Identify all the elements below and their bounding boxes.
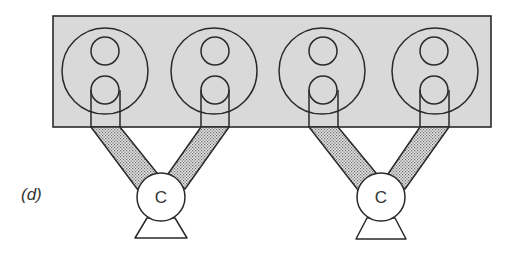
component-label-right: C — [375, 188, 387, 207]
engine-diagram: C C (d) — [0, 0, 519, 262]
engine-block — [53, 16, 491, 127]
component-c-left: C — [135, 173, 187, 238]
panel-label: (d) — [21, 185, 42, 204]
component-label-left: C — [155, 188, 167, 207]
component-c-right: C — [356, 173, 406, 239]
